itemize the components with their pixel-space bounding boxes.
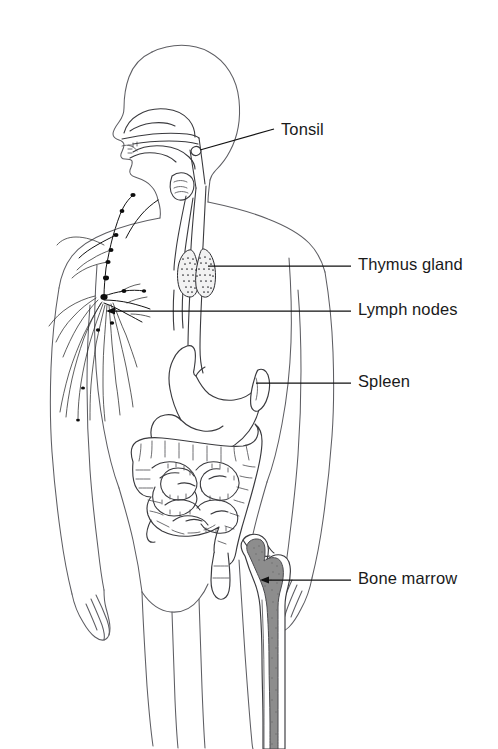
lymph-node: [76, 419, 80, 422]
spleen-outline: [251, 369, 270, 411]
lymph-node: [114, 233, 119, 237]
right-leg-inner: [199, 599, 205, 748]
lymph-wisp-2: [127, 297, 147, 303]
torso-right-side: [267, 258, 291, 482]
right-arm-inner: [284, 290, 301, 575]
lymphatic-system-figure: Tonsil Thymus gland Lymph nodes Spleen B…: [0, 0, 498, 749]
spleen-structure: [251, 369, 270, 411]
lymph-descending-vessels: [49, 296, 137, 421]
tongue-under: [130, 153, 176, 162]
label-spleen: Spleen: [358, 373, 410, 390]
head-internal-structures: [122, 109, 205, 200]
left-hand-fingers: [86, 595, 109, 640]
right-arm-outer: [312, 272, 334, 578]
label-thymus-gland: Thymus gland: [358, 256, 463, 273]
lymph-node: [103, 276, 109, 281]
palate: [133, 141, 198, 144]
lymph-node: [130, 193, 135, 197]
lymph-node: [110, 321, 114, 325]
lymph-deltoid-branch: [57, 237, 104, 245]
lymph-node: [142, 289, 146, 293]
trachea-lower-left: [173, 290, 174, 330]
right-shoulder: [208, 202, 325, 272]
lymph-node: [105, 260, 110, 264]
thymus-right-lobe: [196, 249, 216, 297]
left-leg-inner: [172, 612, 178, 748]
right-leg-outer: [239, 560, 253, 749]
large-intestine-structure: [131, 424, 262, 599]
left-leg-outer: [142, 592, 153, 746]
label-bone-marrow: Bone marrow: [358, 570, 457, 587]
lymph-node: [120, 209, 125, 213]
lymphatic-network: [49, 193, 158, 422]
lymph-node: [109, 248, 114, 252]
neck-back: [208, 180, 210, 202]
lymph-chain-main: [104, 195, 133, 296]
rectum-sigmoid: [211, 553, 230, 599]
trachea-lower-right: [182, 290, 183, 328]
nasal-turbinate: [130, 123, 175, 131]
hip-right: [253, 482, 267, 534]
face-profile: [113, 52, 158, 200]
tongue: [133, 146, 195, 169]
lymph-node: [81, 386, 85, 389]
anatomy-illustration: [0, 0, 498, 749]
lymph-node: [96, 328, 100, 331]
larynx-cartilage-rings: [174, 181, 188, 194]
thymus-gland-structure: [178, 249, 216, 297]
nasal-floor: [122, 133, 199, 139]
hip-left: [119, 488, 142, 592]
lymph-wisp-3: [131, 314, 150, 317]
leader-arrowhead-lymph-nodes: [106, 308, 115, 315]
femur-structure: [241, 534, 290, 749]
label-lymph-nodes: Lymph nodes: [358, 301, 458, 318]
label-tonsil: Tonsil: [281, 121, 324, 138]
groin-curve: [142, 584, 208, 612]
esophagus-lower-right: [200, 290, 203, 373]
lymph-node: [100, 294, 107, 300]
pharynx-posterior-wall: [199, 138, 205, 184]
lymph-node: [122, 289, 127, 293]
skull-outline: [152, 45, 240, 180]
jaw-neck-front: [158, 200, 160, 218]
stomach-cardia: [196, 367, 205, 376]
left-arm-outer: [50, 288, 72, 594]
